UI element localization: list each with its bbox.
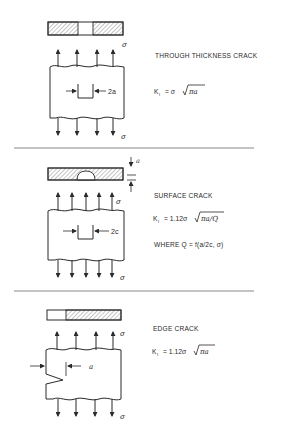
panel-title: THROUGH THICKNESS CRACK — [155, 52, 258, 59]
stress-symbol-top: σ — [122, 41, 127, 49]
dimension-a: a — [89, 363, 93, 371]
stress-intensity-equation: K I = 1.12σ πa — [152, 345, 215, 357]
panel-through-thickness: σ 2a σ THROUGH THICKNESS CRACK K I = σ — [48, 22, 258, 141]
edge-crack-dimension: a — [30, 362, 93, 376]
tension-arrows-bottom — [58, 118, 113, 135]
cross-section-bar — [48, 22, 123, 35]
depth-label-a: a — [136, 157, 140, 165]
svg-text:I: I — [157, 352, 158, 357]
crack-geometry-figure: σ 2a σ THROUGH THICKNESS CRACK K I = σ — [0, 0, 282, 440]
panel-title: EDGE CRACK — [153, 325, 199, 332]
panel-edge: σ a σ EDGE CRACK K I = 1.12σ πa — [30, 310, 215, 421]
svg-text:πa: πa — [188, 88, 198, 96]
svg-text:I: I — [159, 92, 160, 97]
svg-text:= 1.12σ: = 1.12σ — [163, 348, 187, 355]
stress-symbol-top: σ — [116, 198, 121, 206]
stress-intensity-equation: K I = σ πa — [154, 85, 205, 97]
stress-symbol-bottom: σ — [120, 413, 125, 421]
dimension-2a: 2a — [108, 88, 116, 95]
stress-symbol-bottom: σ — [120, 274, 125, 282]
svg-text:= 1.12σ: = 1.12σ — [164, 215, 188, 222]
tension-arrows-top — [58, 193, 112, 211]
through-crack — [78, 84, 93, 98]
cross-section-bar — [47, 310, 121, 320]
surface-crack — [78, 225, 93, 239]
panel-surface: a σ 2c σ SURFACE CRACK K I = 1.12σ — [48, 157, 224, 282]
depth-dimension: a — [127, 157, 140, 192]
svg-text:πa/Q: πa/Q — [200, 215, 218, 223]
tension-arrows-top — [58, 50, 113, 67]
dimension-2c: 2c — [111, 228, 119, 235]
stress-intensity-equation: K I = 1.12σ πa/Q — [153, 212, 224, 224]
svg-text:πa: πa — [199, 348, 209, 356]
q-definition: WHERE Q = f(a/2c, σ) — [154, 241, 223, 249]
panel-title: SURFACE CRACK — [154, 192, 213, 199]
tension-arrows-bottom — [58, 399, 112, 416]
plate-outline-with-edge-notch — [46, 348, 121, 400]
svg-text:I: I — [158, 219, 159, 224]
stress-symbol-bottom: σ — [121, 133, 126, 141]
svg-text:= σ: = σ — [165, 88, 176, 95]
stress-symbol-top: σ — [120, 330, 125, 338]
tension-arrows-bottom — [58, 260, 112, 277]
cross-section-bar — [48, 168, 123, 180]
tension-arrows-top — [57, 332, 113, 350]
